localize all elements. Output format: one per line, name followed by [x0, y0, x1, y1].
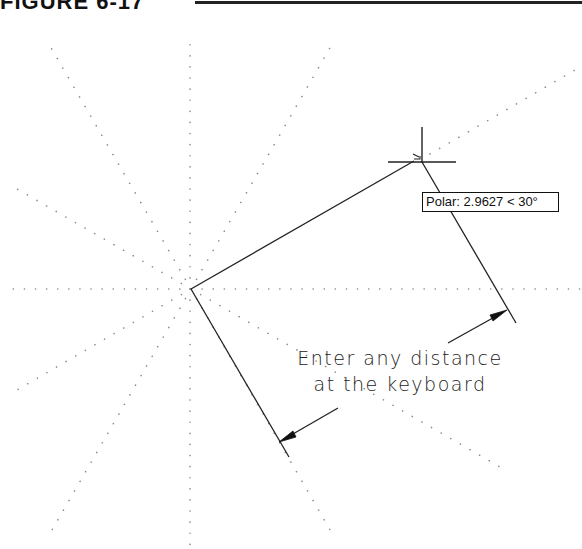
extension-line-right[interactable] [422, 162, 516, 323]
arrowhead-right-icon [490, 310, 507, 321]
annotation-line-2: at the keyboard [250, 373, 550, 395]
polar-tracking-tooltip: Polar: 2.9627 < 30° [422, 192, 559, 212]
tracking-ray-60 [191, 46, 331, 289]
tracking-ray-240 [52, 289, 191, 530]
cad-drawing-canvas[interactable] [0, 0, 582, 549]
object-line-30deg[interactable] [191, 161, 414, 289]
tracking-ray-210 [17, 289, 191, 390]
tracking-ray-30 [430, 66, 582, 154]
cursor-crosshair [388, 127, 456, 163]
tracking-ray-150 [17, 189, 191, 289]
annotation-line-1: Enter any distance [250, 347, 550, 369]
arrowhead-left-icon [279, 431, 296, 442]
autosnap-marker-icon [413, 154, 420, 159]
polar-tracking-rays [5, 43, 582, 545]
tracking-ray-120 [50, 46, 191, 289]
